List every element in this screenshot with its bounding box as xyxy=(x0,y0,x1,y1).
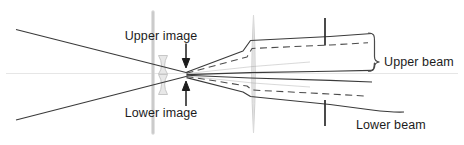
upper-beam-top-edge xyxy=(187,34,373,73)
label-lower-image: Lower image xyxy=(125,106,198,120)
label-upper-image: Upper image xyxy=(125,29,198,43)
arrow-down-icon xyxy=(182,44,189,69)
optical-ray-diagram-figure: Upper image Lower image Upper beam Lower… xyxy=(0,0,464,145)
small-biconcave-lens xyxy=(159,56,168,95)
curly-brace-lower-half xyxy=(369,63,375,71)
diagram-canvas: Upper image Lower image Upper beam Lower… xyxy=(0,0,464,145)
outgoing-ray-bundle xyxy=(187,34,405,113)
label-upper-beam: Upper beam xyxy=(384,55,454,69)
lower-beam-bottom-edge xyxy=(187,78,405,112)
label-lower-beam: Lower beam xyxy=(356,118,426,132)
large-lens-profile xyxy=(252,15,256,133)
arrow-up-icon xyxy=(182,81,189,106)
upper-beam-chief-ray xyxy=(187,43,369,73)
